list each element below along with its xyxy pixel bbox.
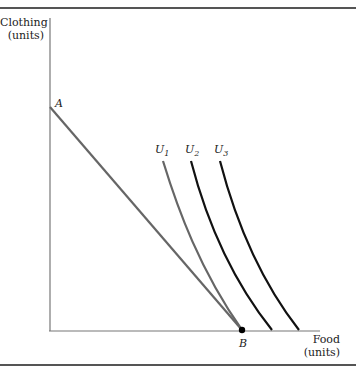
indifference-curve-u1 [163,161,242,330]
u2-label: U2 [185,143,199,160]
u1-label: U1 [155,143,169,160]
budget-line [50,107,242,330]
point-b-label: B [239,337,247,350]
indifference-curve-u2 [191,161,272,330]
point-a-label: A [55,97,63,110]
u3-label: U3 [214,143,228,160]
chart-plot [0,0,356,370]
point-b-marker [239,327,245,333]
indifference-curve-u3 [220,161,299,330]
